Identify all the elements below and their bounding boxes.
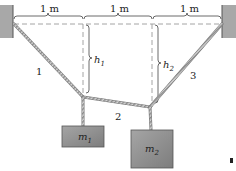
dimension-label-1: 1 m xyxy=(40,3,60,14)
left-wall xyxy=(0,5,13,38)
diagram-canvas: 1 m 1 m 1 m h1 h2 1 2 3 m1 m2 xyxy=(0,0,236,171)
cable-label-2: 2 xyxy=(115,111,121,122)
edge-mark xyxy=(230,158,233,163)
height-brace-h2 xyxy=(155,25,161,103)
mass-m2: m2 xyxy=(131,130,173,168)
mass-m1: m1 xyxy=(62,126,104,147)
dimension-label-3: 1 m xyxy=(180,3,200,14)
right-wall xyxy=(222,5,236,38)
cable-label-3: 3 xyxy=(190,70,196,81)
dimension-label-2: 1 m xyxy=(110,3,130,14)
cable-label-1: 1 xyxy=(36,66,42,77)
height-brace-h1 xyxy=(86,25,92,93)
reference-dashed-lines xyxy=(14,24,222,107)
height-label-h1: h1 xyxy=(94,54,105,68)
height-label-h2: h2 xyxy=(163,59,174,73)
